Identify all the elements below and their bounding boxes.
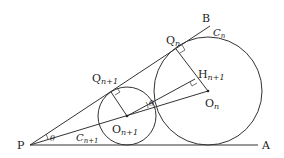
label-theta-mid: θ [149,99,154,108]
label-Qn: Qn [166,34,180,48]
label-Hn1: Hn+1 [198,68,225,82]
center-On1-dot [126,115,129,118]
radius-On1-Qn1 [111,92,127,116]
label-A: A [261,139,271,152]
label-Qn1: Qn+1 [92,72,118,86]
label-theta-P: θ [50,134,55,143]
right-angle-Qn [180,45,185,53]
label-On: On [205,97,219,111]
geometry-diagram: P A B Qn Qn+1 Hn+1 On On+1 Cn Cn+1 θ θ [0,0,284,158]
line-P-On [30,91,208,145]
label-Cn1: Cn+1 [76,132,98,145]
line-On1-Hn1 [127,79,195,116]
angle-arc-P [46,134,48,140]
label-B: B [202,12,210,25]
center-On-dot [207,90,210,93]
label-P: P [17,139,25,152]
label-On1: On+1 [112,123,138,137]
right-angle-Hn1 [190,82,197,86]
